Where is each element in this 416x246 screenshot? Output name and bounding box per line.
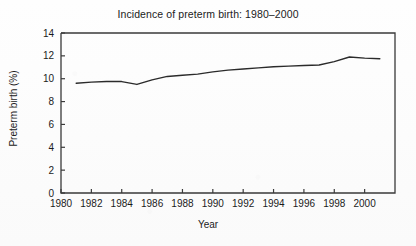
y-tick-label: 2 xyxy=(48,165,54,176)
y-tick-label: 10 xyxy=(43,73,55,84)
x-tick-label: 1992 xyxy=(232,198,255,209)
y-tick-label: 12 xyxy=(43,50,55,61)
y-tick-label: 0 xyxy=(48,188,54,199)
x-tick-label: 1998 xyxy=(323,198,346,209)
x-tick-label: 1994 xyxy=(262,198,285,209)
x-tick-label: 1982 xyxy=(80,198,103,209)
x-tick-group: 1980198219841986198819901992199419961998… xyxy=(50,189,376,209)
x-tick-label: 1986 xyxy=(141,198,164,209)
x-tick-label: 1988 xyxy=(171,198,194,209)
plot-area: 02468101214 1980198219841986198819901992… xyxy=(0,0,416,246)
y-tick-label: 6 xyxy=(48,119,54,130)
line-series-preterm-birth xyxy=(76,57,380,84)
data-series-group xyxy=(76,57,380,84)
y-tick-label: 14 xyxy=(43,28,55,39)
x-tick-label: 1984 xyxy=(111,198,134,209)
y-tick-group: 02468101214 xyxy=(43,28,65,199)
x-tick-label: 1990 xyxy=(202,198,225,209)
y-tick-label: 8 xyxy=(48,96,54,107)
x-tick-label: 1980 xyxy=(50,198,73,209)
chart-figure: Incidence of preterm birth: 1980–2000 Pr… xyxy=(0,0,416,246)
y-tick-label: 4 xyxy=(48,142,54,153)
x-tick-label: 2000 xyxy=(354,198,377,209)
x-tick-label: 1996 xyxy=(293,198,316,209)
axis-frame xyxy=(61,33,395,193)
